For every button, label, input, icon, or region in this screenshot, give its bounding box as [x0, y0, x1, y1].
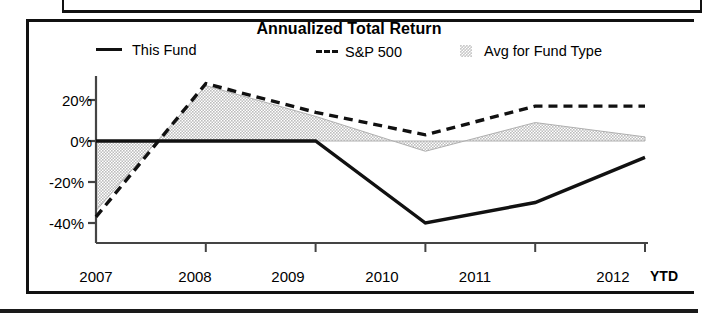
- series-line-sp500: [96, 84, 645, 217]
- y-tick-label-20: 20%: [28, 92, 92, 109]
- x-tick-label-2011: 2011: [440, 268, 510, 285]
- x-axis-ytd-label: YTD: [650, 268, 678, 284]
- x-tick-label-2007: 2007: [61, 268, 131, 285]
- x-tick-label-2012: 2012: [578, 268, 648, 285]
- x-tick-label-2009: 2009: [253, 268, 323, 285]
- y-tick-label-neg40: -40%: [20, 215, 84, 232]
- section-bottom-rule: [0, 309, 698, 313]
- x-tick-label-2010: 2010: [347, 268, 417, 285]
- series-line-this-fund: [96, 141, 645, 223]
- x-tick-label-2008: 2008: [160, 268, 230, 285]
- y-tick-label-0: 0%: [28, 133, 92, 150]
- chart-axes: [88, 76, 648, 252]
- y-tick-label-neg20: -20%: [20, 174, 84, 191]
